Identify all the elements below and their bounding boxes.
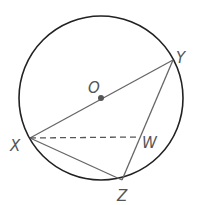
geometry-diagram: O X Y Z W — [0, 0, 198, 205]
segment-xw-dashed — [30, 137, 139, 138]
label-y: Y — [176, 49, 187, 67]
label-z: Z — [116, 187, 128, 205]
segment-xz — [30, 138, 122, 180]
label-w: W — [142, 134, 158, 152]
label-o: O — [88, 79, 100, 97]
segment-yz — [122, 60, 173, 180]
label-x: X — [9, 137, 21, 155]
